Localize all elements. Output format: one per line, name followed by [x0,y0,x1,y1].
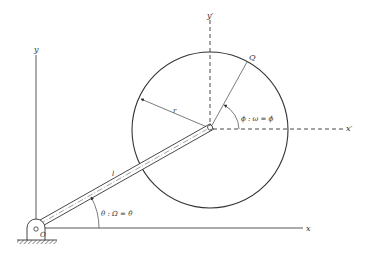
y-prime-axis-label: y′ [206,11,214,20]
kinematics-diagram: y x y′ x′ Q r ϕ : ω = ϕ̇ l θ : Ω = θ̇ O [0,0,368,256]
phi-relation-label: ϕ : ω = ϕ̇ [241,115,274,123]
pivot-label: O [40,231,46,239]
point-q-label: Q [249,53,256,62]
link-length-label: l [112,170,114,178]
ground-hatch [17,240,57,244]
pivot-support [17,219,57,244]
theta-angle-arc [91,197,99,228]
phi-angle-arc [224,105,239,129]
y-axis-label: y [33,45,39,54]
x-axis-label: x [306,224,311,233]
theta-relation-label: θ : Ω = θ̇ [101,210,133,218]
x-prime-axis-label: x′ [346,124,353,133]
